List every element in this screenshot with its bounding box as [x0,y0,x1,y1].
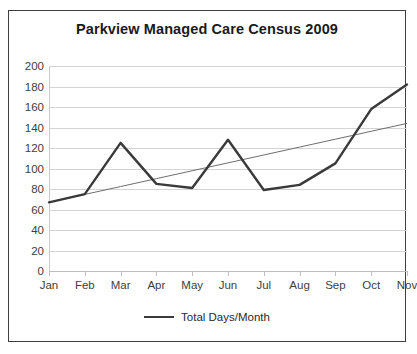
chart-legend: Total Days/Month [9,311,405,323]
x-axis-tick-label: Mar [111,279,131,291]
x-axis-tick [264,271,265,276]
x-axis-tick-label: Feb [75,279,95,291]
x-axis-tick [407,271,408,276]
x-axis-tick [49,271,50,276]
x-axis-tick-label: Nov [397,279,417,291]
y-axis-tick-label: 140 [25,122,44,134]
plot-area: 200180160140120100806040200 JanFebMarApr… [49,66,407,271]
y-axis-tick-label: 20 [31,245,44,257]
x-axis-tick-label: Sep [325,279,345,291]
legend-label-total-days: Total Days/Month [181,311,270,323]
total-days-per-month-line [49,84,407,202]
y-axis-tick-label: 120 [25,142,44,154]
chart-title: Parkview Managed Care Census 2009 [9,21,405,37]
legend-swatch-total-days [144,316,174,319]
x-axis-tick-label: May [181,279,203,291]
x-axis-tick [335,271,336,276]
x-axis-tick-label: Jun [219,279,238,291]
x-axis-tick-label: Aug [289,279,309,291]
chart-container: Parkview Managed Care Census 2009 200180… [8,10,406,342]
y-axis-tick-label: 160 [25,101,44,113]
series-lines [49,66,407,271]
x-axis-tick-label: Jul [256,279,271,291]
y-axis-tick-label: 40 [31,224,44,236]
x-axis-tick [228,271,229,276]
x-axis-tick [121,271,122,276]
x-axis-tick-label: Apr [147,279,165,291]
y-axis-tick-label: 60 [31,204,44,216]
y-axis-tick-label: 180 [25,81,44,93]
x-axis-tick [300,271,301,276]
x-axis-tick-label: Oct [362,279,380,291]
y-axis-tick-label: 0 [38,265,44,277]
x-axis-tick [85,271,86,276]
y-axis-tick-label: 80 [31,183,44,195]
x-axis-tick [371,271,372,276]
x-axis-tick [156,271,157,276]
y-axis-tick-label: 100 [25,163,44,175]
x-axis-tick-label: Jan [40,279,59,291]
y-axis-tick-label: 200 [25,60,44,72]
x-axis-tick [192,271,193,276]
